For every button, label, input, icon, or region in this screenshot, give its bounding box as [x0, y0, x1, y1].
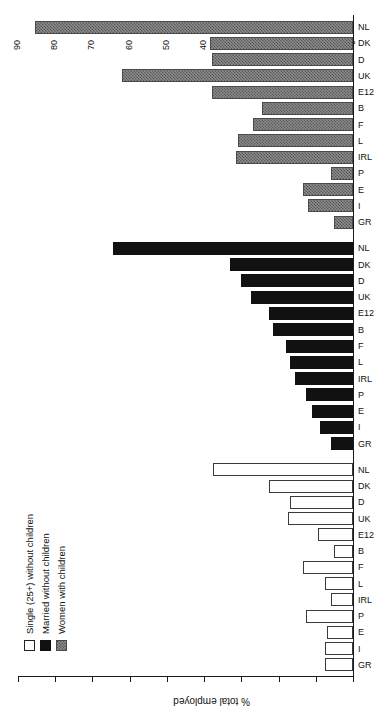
bar — [253, 118, 354, 131]
axis-tick — [204, 677, 205, 682]
bar — [210, 37, 353, 50]
bar — [308, 199, 353, 212]
category-label: E — [358, 628, 364, 637]
category-label: E — [358, 186, 364, 195]
rotated-chart-container: 0102030405060708090 GRIEPIRLLFBE12UKDDKN… — [0, 0, 379, 713]
bar — [318, 528, 353, 541]
value-axis-title: % total employed — [173, 696, 250, 707]
category-label: I — [358, 202, 361, 211]
category-label: GR — [358, 218, 372, 227]
legend-label: Women with children — [56, 546, 67, 634]
bar — [212, 53, 353, 66]
bar — [241, 274, 353, 287]
bar — [320, 421, 354, 434]
axis-tick — [353, 677, 354, 682]
axis-tick-label: 40 — [199, 40, 208, 50]
category-label: IRL — [358, 375, 372, 384]
legend-swatch — [24, 640, 35, 651]
bar — [113, 242, 353, 255]
bar — [286, 340, 353, 353]
category-label: DK — [358, 261, 371, 270]
bar — [327, 626, 353, 639]
axis-tick — [279, 677, 280, 682]
bar — [312, 405, 353, 418]
category-label: NL — [358, 244, 370, 253]
category-label: L — [358, 580, 363, 589]
axis-tick — [18, 677, 19, 682]
bar — [325, 658, 353, 671]
category-label: I — [358, 645, 361, 654]
category-label: UK — [358, 515, 371, 524]
category-label: IRL — [358, 153, 372, 162]
category-label: NL — [358, 466, 370, 475]
axis-tick-label: 80 — [50, 40, 59, 50]
plot-area: 0102030405060708090 GRIEPIRLLFBE12UKDDKN… — [0, 0, 379, 713]
axis-tick-label: 60 — [125, 40, 134, 50]
bar — [334, 216, 353, 229]
category-label: P — [358, 169, 364, 178]
chart-legend: Single (25+) without childrenMarried wit… — [24, 514, 72, 651]
axis-tick — [316, 677, 317, 682]
axis-tick-label: 90 — [13, 40, 22, 50]
category-label: F — [358, 342, 364, 351]
category-label: DK — [358, 482, 371, 491]
legend-item: Women with children — [56, 514, 67, 651]
bar — [325, 642, 353, 655]
axis-tick — [130, 677, 131, 682]
category-label: B — [358, 104, 364, 113]
axis-tick — [55, 677, 56, 682]
category-label: IRL — [358, 596, 372, 605]
bar — [306, 388, 353, 401]
bar — [288, 512, 353, 525]
bar — [122, 69, 353, 82]
bar — [35, 21, 353, 34]
category-label: P — [358, 391, 364, 400]
category-label: E12 — [358, 88, 374, 97]
category-label: D — [358, 56, 365, 65]
bar — [325, 577, 353, 590]
bar — [303, 183, 353, 196]
bar — [269, 307, 353, 320]
bar — [306, 610, 353, 623]
category-label: E12 — [358, 310, 374, 319]
axis-tick — [92, 677, 93, 682]
bar — [331, 167, 353, 180]
axis-tick-label: 50 — [162, 40, 171, 50]
category-label: D — [358, 277, 365, 286]
legend-item: Married without children — [40, 514, 51, 651]
chart-canvas: 0102030405060708090 GRIEPIRLLFBE12UKDDKN… — [0, 0, 379, 713]
category-label: UK — [358, 72, 371, 81]
category-label: NL — [358, 23, 370, 32]
legend-swatch — [40, 640, 51, 651]
category-axis-line — [353, 15, 354, 677]
bar — [273, 323, 353, 336]
category-label: E — [358, 407, 364, 416]
axis-tick — [167, 677, 168, 682]
bar — [331, 437, 353, 450]
bar — [251, 291, 353, 304]
bar — [295, 372, 353, 385]
category-label: DK — [358, 39, 371, 48]
bar — [262, 102, 353, 115]
category-label: F — [358, 563, 364, 572]
legend-swatch — [56, 640, 67, 651]
bar — [230, 258, 353, 271]
bar — [269, 480, 353, 493]
bar — [213, 463, 353, 476]
category-label: GR — [358, 661, 372, 670]
bar — [290, 356, 353, 369]
axis-tick-label: 70 — [87, 40, 96, 50]
bar — [303, 561, 353, 574]
legend-label: Single (25+) without children — [24, 514, 35, 634]
category-label: B — [358, 326, 364, 335]
bar — [212, 86, 353, 99]
value-axis-line — [18, 676, 353, 677]
category-label: F — [358, 121, 364, 130]
category-label: L — [358, 137, 363, 146]
legend-label: Married without children — [40, 533, 51, 634]
bar — [238, 134, 353, 147]
bar — [334, 545, 353, 558]
category-label: L — [358, 358, 363, 367]
category-label: UK — [358, 293, 371, 302]
category-label: P — [358, 612, 364, 621]
